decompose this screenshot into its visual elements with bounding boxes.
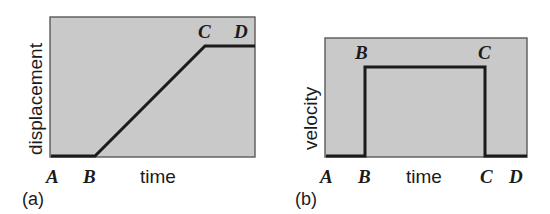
x-axis-label-b: time (406, 166, 442, 187)
tick-label-b-D: D (508, 166, 523, 187)
tick-label-a-A: A (45, 166, 59, 187)
y-axis-label-a: displacement (25, 42, 46, 155)
annotation-b-C: C (478, 42, 491, 63)
panel-caption-b: (b) (295, 189, 317, 209)
panel-b-velocity-graph: velocity time A B C D B C (b) (275, 0, 550, 214)
annotation-a-D: D (233, 21, 248, 42)
y-axis-label-b: velocity (300, 86, 321, 150)
tick-label-b-C: C (480, 166, 493, 187)
tick-label-b-B: B (357, 166, 371, 187)
physics-motion-graphs-figure: displacement time A B C D (a) velocity t… (0, 0, 550, 214)
tick-label-b-A: A (319, 166, 333, 187)
panel-a-displacement-graph: displacement time A B C D (a) (0, 0, 275, 214)
annotation-a-C: C (198, 21, 211, 42)
x-axis-label-a: time (140, 166, 176, 187)
plot-area-a (50, 17, 255, 157)
panel-caption-a: (a) (22, 189, 44, 209)
annotation-b-B: B (354, 42, 368, 63)
tick-label-a-B: B (82, 166, 96, 187)
